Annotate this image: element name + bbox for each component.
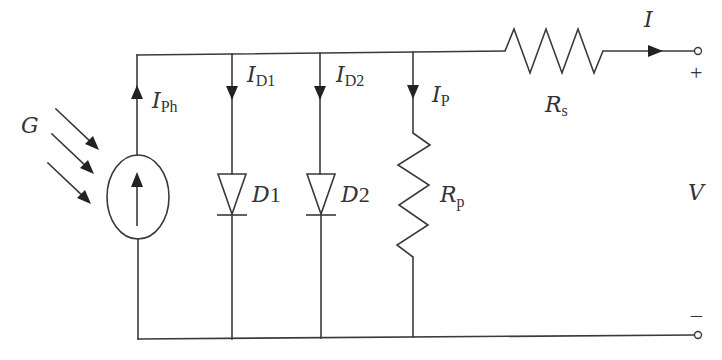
irradiance-label: G (21, 113, 39, 138)
diode2-branch: ID2 D2 (306, 53, 370, 338)
top-wire (137, 51, 505, 55)
negative-terminal (695, 332, 702, 339)
diode2-current-label: ID2 (335, 62, 364, 89)
diode2-label: D2 (340, 182, 370, 207)
light-ray-3 (48, 163, 84, 197)
bottom-wire (138, 335, 694, 339)
light-ray-2 (52, 134, 87, 167)
minus-sign: – (690, 302, 703, 327)
irradiance-arrows: G (21, 109, 99, 204)
parallel-current-label: IP (431, 82, 450, 109)
diode1-icon (218, 174, 246, 214)
output-current-label: I (643, 7, 654, 32)
diode1-current-label: ID1 (246, 62, 275, 89)
diode1-label: D1 (251, 182, 281, 207)
parallel-resistor-label: Rp (439, 182, 465, 211)
series-resistor-icon (505, 29, 603, 73)
parallel-resistor-icon (397, 133, 430, 257)
voltage-label: V (688, 180, 706, 205)
current-source-icon (107, 155, 169, 239)
light-ray-1 (56, 109, 92, 143)
diode1-branch: ID1 D1 (217, 54, 281, 339)
circuit-diagram: IPh G ID1 D1 ID2 D2 IP Rp (0, 0, 722, 360)
parallel-current-arrow-icon (407, 85, 419, 99)
diode1-current-arrow-icon (226, 86, 238, 100)
series-resistor: Rs (505, 29, 603, 119)
photocurrent-label: IPh (151, 88, 178, 115)
parallel-resistor-branch: IP Rp (397, 52, 465, 337)
photocurrent-arrow-icon (131, 85, 143, 99)
output-terminals: I + – V (643, 7, 706, 339)
series-resistor-label: Rs (544, 92, 568, 119)
diode2-icon (307, 174, 335, 214)
positive-terminal (695, 48, 702, 55)
current-source-inner-arrow-icon (131, 172, 143, 187)
output-current-arrow-icon (648, 45, 663, 57)
current-source-branch: IPh (107, 55, 178, 339)
plus-sign: + (690, 60, 702, 85)
diode2-current-arrow-icon (314, 86, 326, 100)
